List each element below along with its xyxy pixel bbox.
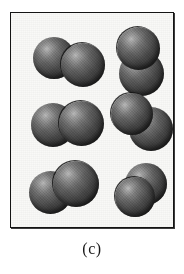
- molecule-bottom-left: [25, 155, 109, 223]
- atom-sphere: [61, 43, 105, 87]
- figure-panel: [10, 12, 174, 228]
- molecule-bottom-right: [111, 159, 179, 223]
- molecule-top-right: [103, 17, 179, 99]
- molecule-top-left: [25, 19, 109, 91]
- molecule-middle-left: [27, 89, 111, 155]
- atom-sphere: [115, 177, 155, 217]
- atom-sphere: [53, 161, 99, 207]
- atom-sphere: [117, 27, 160, 70]
- figure-caption: (c): [0, 240, 184, 258]
- molecule-middle-right: [105, 89, 181, 159]
- atom-sphere: [111, 93, 153, 135]
- atom-sphere: [59, 101, 104, 146]
